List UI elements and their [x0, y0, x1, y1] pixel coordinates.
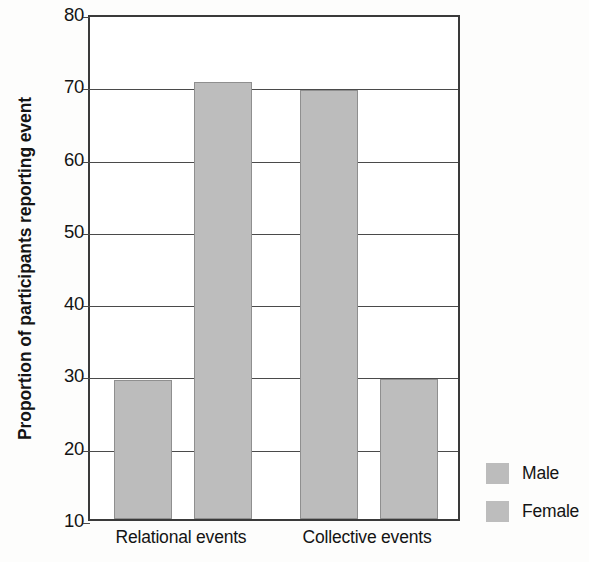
- plot-area: [88, 15, 460, 521]
- legend-label: Female: [522, 501, 579, 522]
- y-axis-tick-mark: [83, 523, 90, 524]
- y-axis-title-text: Proportion of participants reporting eve…: [15, 97, 36, 440]
- y-axis-tick-label: 70: [40, 76, 84, 98]
- bar-relational-events-male: [114, 380, 172, 520]
- y-axis-tick-labels: 1020304050607080: [40, 0, 84, 562]
- bar-chart-figure: Proportion of participants reporting eve…: [0, 0, 589, 562]
- bar-collective-events-female: [380, 379, 438, 519]
- legend-item-female: Female: [486, 496, 586, 527]
- bar-relational-events-female: [194, 82, 252, 519]
- bar-collective-events-male: [300, 90, 358, 519]
- gridline: [90, 234, 458, 235]
- legend-item-male: Male: [486, 458, 586, 489]
- y-axis-tick-mark: [83, 306, 90, 307]
- y-axis-title: Proportion of participants reporting eve…: [8, 15, 42, 521]
- y-axis-tick-label: 80: [40, 4, 84, 26]
- y-axis-tick-label: 30: [40, 365, 84, 387]
- legend-swatch-male: [486, 463, 509, 484]
- y-axis-tick-label: 50: [40, 221, 84, 243]
- legend: MaleFemale: [486, 458, 586, 534]
- y-axis-tick-mark: [83, 378, 90, 379]
- gridline: [90, 306, 458, 307]
- y-axis-tick-mark: [83, 17, 90, 18]
- y-axis-tick-label: 10: [40, 510, 84, 532]
- gridline: [90, 89, 458, 90]
- legend-label: Male: [522, 463, 559, 484]
- y-axis-tick-label: 60: [40, 149, 84, 171]
- x-axis-tick-labels: Relational eventsCollective events: [88, 527, 460, 561]
- y-axis-tick-mark: [83, 162, 90, 163]
- legend-swatch-female: [486, 501, 509, 522]
- y-axis-tick-mark: [83, 234, 90, 235]
- gridline: [90, 162, 458, 163]
- x-axis-tick-label: Relational events: [116, 527, 247, 548]
- y-axis-tick-label: 20: [40, 438, 84, 460]
- y-axis-tick-label: 40: [40, 293, 84, 315]
- y-axis-tick-mark: [83, 451, 90, 452]
- y-axis-tick-mark: [83, 89, 90, 90]
- plot-inner: [90, 17, 458, 519]
- x-axis-tick-label: Collective events: [303, 527, 432, 548]
